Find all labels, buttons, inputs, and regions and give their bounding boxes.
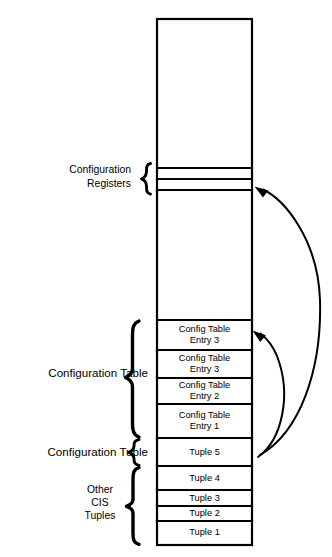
config-table-entry-1-line2: Entry 1 — [190, 421, 219, 431]
configuration-registers-label-line2: Registers — [87, 178, 131, 189]
diagram-page: Config Table Entry 3 Config Table Entry … — [0, 0, 332, 557]
arrow-tuple5-to-config-table-head — [253, 331, 266, 343]
other-cis-tuples-label-line2: CIS — [91, 497, 108, 508]
other-cis-tuples-label-line3: Tuples — [85, 510, 116, 521]
tuple-1-label: Tuple 1 — [189, 527, 220, 537]
configuration-registers-brace — [142, 164, 151, 195]
cis-configuration-diagram: Config Table Entry 3 Config Table Entry … — [0, 0, 332, 557]
other-cis-tuples-label-line1: Other — [87, 484, 114, 495]
arrow-tuple5-to-config-registers-curve — [260, 190, 320, 456]
config-table-entry-1-line1: Config Table — [179, 410, 231, 420]
config-table-entry-3b-line2: Entry 3 — [190, 364, 219, 374]
config-table-entry-3a-line1: Config Table — [179, 324, 231, 334]
configuration-registers-label-line1: Configuration — [69, 164, 131, 175]
tuple-3-label: Tuple 3 — [189, 493, 220, 503]
config-table-entry-2-line2: Entry 2 — [190, 391, 219, 401]
config-table-entry-3b-line1: Config Table — [179, 353, 231, 363]
tuple-2-label: Tuple 2 — [189, 508, 220, 518]
other-cis-tuples-brace — [127, 468, 140, 545]
tuple-4-label: Tuple 4 — [189, 473, 220, 483]
config-table-entry-2-line1: Config Table — [179, 380, 231, 390]
config-table-entry-3a-line2: Entry 3 — [190, 335, 219, 345]
arrow-tuple5-to-config-registers-head — [255, 187, 269, 198]
tuple-5-label: Tuple 5 — [189, 447, 220, 457]
